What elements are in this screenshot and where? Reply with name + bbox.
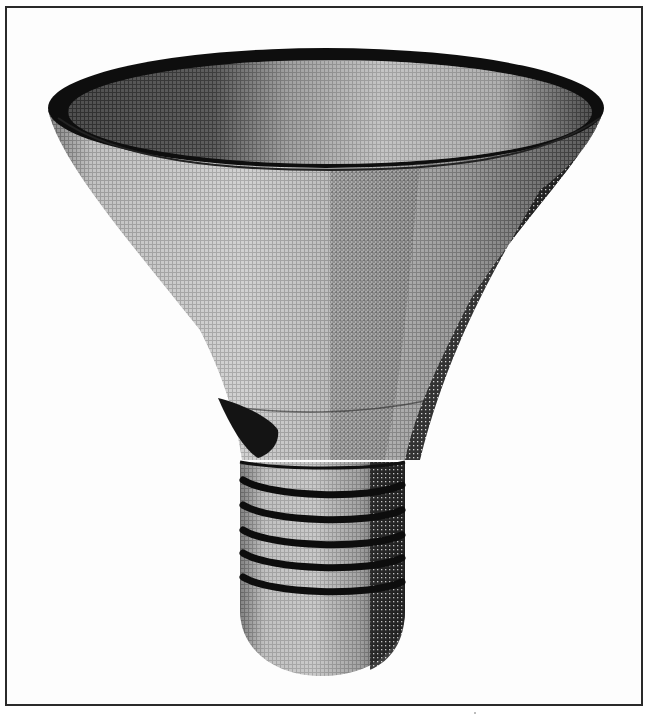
scan-speck [474,712,476,714]
funnel-illustration [0,0,653,719]
